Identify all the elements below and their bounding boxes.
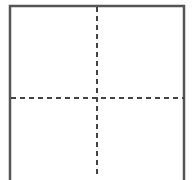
quadrant-diagram bbox=[0, 0, 194, 180]
